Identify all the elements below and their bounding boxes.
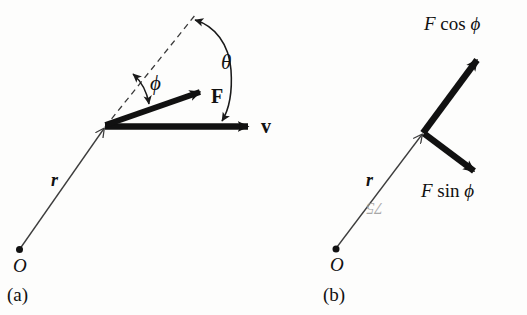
component-parallel-symbol: ϕ (470, 13, 480, 34)
origin-dot-b (333, 246, 340, 253)
component-perpendicular-prefix: F (421, 180, 433, 201)
velocity-vector-label-a: v (261, 116, 271, 136)
component-parallel-prefix: F (424, 13, 436, 34)
origin-dot-a (16, 246, 23, 253)
panel-b-graphics (333, 60, 478, 253)
force-vector-label-a: F (211, 86, 223, 106)
radius-label-b: r (366, 171, 373, 189)
angle-phi-label: ϕ (150, 73, 161, 94)
angle-phi-arc (133, 74, 149, 104)
component-parallel-function: cos (440, 13, 465, 34)
force-component-parallel-label: F cos ϕ (424, 14, 480, 33)
panel-a-graphics (16, 14, 248, 253)
origin-label-b: O (330, 255, 344, 274)
angle-theta-label: θ (221, 52, 231, 73)
component-perpendicular-function: sin (437, 180, 459, 201)
radius-vector-b (337, 135, 422, 248)
force-component-perpendicular-vector (424, 134, 474, 172)
page-number-bleedthrough: 75 (366, 198, 383, 218)
radius-vector-a (21, 129, 105, 249)
force-component-perpendicular-label: F sin ϕ (421, 181, 474, 200)
component-perpendicular-symbol: ϕ (464, 180, 474, 201)
figure-vector-graphics (0, 0, 527, 315)
figure-container: θ ϕ F v r O (a) F cos ϕ F sin ϕ r O (b) … (0, 0, 527, 315)
panel-caption-a: (a) (7, 285, 28, 304)
origin-label-a: O (13, 256, 27, 275)
force-component-parallel-vector (423, 60, 477, 133)
radius-label-a: r (51, 171, 58, 189)
panel-caption-b: (b) (323, 285, 345, 304)
